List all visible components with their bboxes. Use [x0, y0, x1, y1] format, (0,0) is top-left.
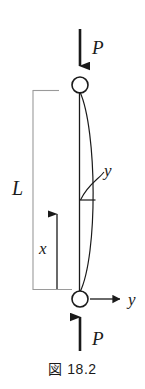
label-deflection: y [102, 161, 112, 180]
buckled-column-curve [80, 92, 93, 292]
pin-support-top [72, 77, 88, 93]
buckling-column-diagram: P P L x y y [0, 0, 145, 389]
figure-caption: 図 18.2 [0, 358, 145, 378]
pin-support-bottom [72, 291, 88, 307]
deflection-leader-line [81, 172, 105, 200]
length-dimension-bracket [33, 90, 72, 290]
label-axis-x: x [38, 239, 47, 258]
label-load-bottom: P [91, 328, 104, 349]
label-axis-y: y [126, 290, 136, 309]
label-length: L [11, 177, 23, 199]
label-load-top: P [91, 37, 104, 58]
figure-container: P P L x y y 図 18.2 [0, 0, 145, 389]
